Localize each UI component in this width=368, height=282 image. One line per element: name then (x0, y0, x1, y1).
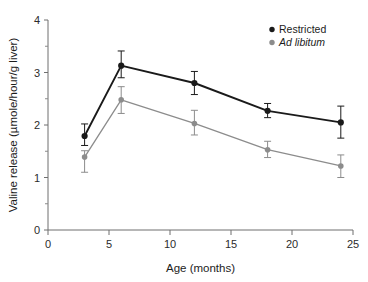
x-tick-label-5: 5 (106, 238, 112, 250)
data-point (82, 154, 88, 160)
legend-marker-1 (269, 40, 274, 45)
y-tick-label-0: 0 (34, 224, 40, 236)
x-tick-label-15: 15 (225, 238, 237, 250)
x-tick-label-0: 0 (45, 238, 51, 250)
y-tick-label-3: 3 (34, 67, 40, 79)
data-point (338, 119, 344, 125)
data-point (265, 108, 271, 114)
legend-label-0: Restricted (279, 23, 326, 35)
data-point (191, 80, 197, 86)
series-line (85, 100, 341, 166)
data-point (82, 133, 88, 139)
legend-marker-0 (269, 27, 274, 32)
data-point (118, 97, 124, 103)
y-tick-label-1: 1 (34, 172, 40, 184)
x-tick-label-20: 20 (286, 238, 298, 250)
line-chart: 012340510152025Age (months)Valine releas… (0, 0, 368, 282)
y-tick-label-4: 4 (34, 14, 40, 26)
data-point (192, 121, 198, 127)
series-ad-libitum (81, 87, 344, 178)
x-tick-label-25: 25 (347, 238, 359, 250)
data-point (265, 147, 271, 153)
x-axis-title: Age (months) (166, 262, 235, 274)
x-tick-label-10: 10 (164, 238, 176, 250)
legend-label-1: Ad libitum (278, 36, 325, 48)
y-tick-label-2: 2 (34, 119, 40, 131)
legend: RestrictedAd libitum (269, 23, 326, 48)
chart-container: 012340510152025Age (months)Valine releas… (0, 0, 368, 282)
data-point (338, 163, 344, 169)
data-point (118, 63, 124, 69)
y-axis-title: Valine release (µmole/hour/g liver) (7, 38, 19, 213)
